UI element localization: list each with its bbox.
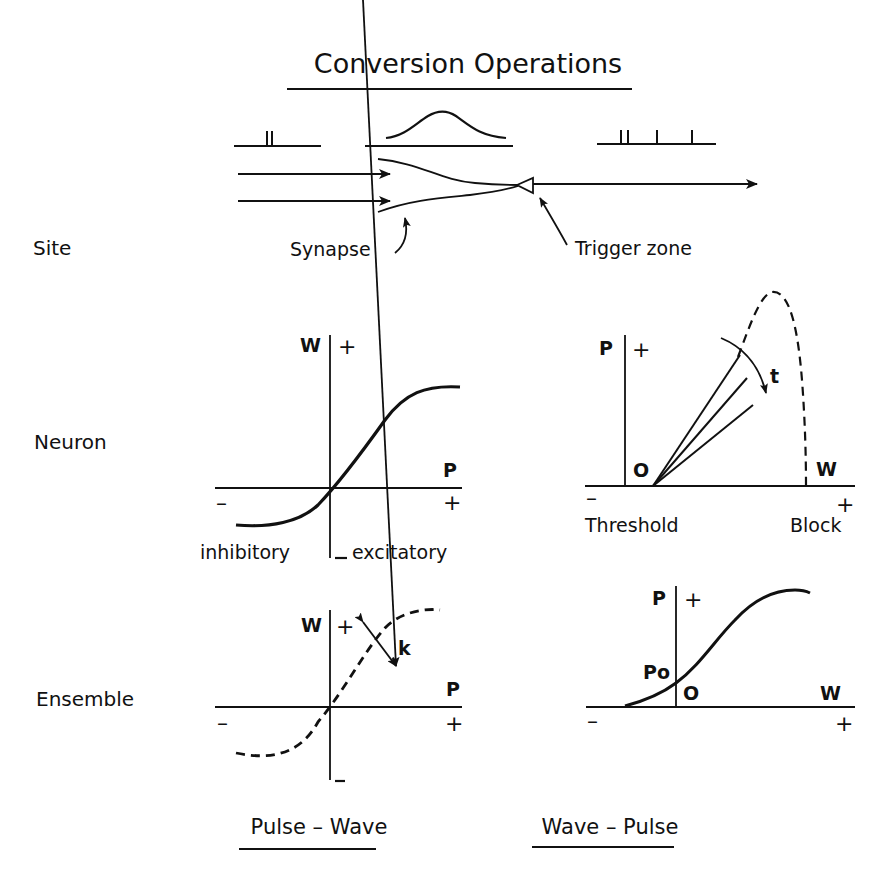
x-minus-sign: – bbox=[586, 485, 597, 510]
column-label-wave-pulse: Wave – Pulse bbox=[542, 815, 679, 839]
panel-ensemble-wave-pulse: P + Po O W – + bbox=[586, 586, 855, 736]
x-plus-sign: + bbox=[443, 490, 461, 515]
x-axis-label: W bbox=[820, 682, 841, 704]
k-parameter-arrow bbox=[363, 0, 396, 666]
y-plus-sign: + bbox=[684, 587, 702, 612]
fan-line-2 bbox=[653, 378, 747, 486]
inhibitory-label: inhibitory bbox=[200, 541, 290, 563]
fan-line-3 bbox=[653, 405, 753, 486]
x-minus-sign: – bbox=[216, 490, 227, 515]
x-plus-sign: + bbox=[445, 711, 463, 736]
x-minus-sign: – bbox=[587, 708, 598, 733]
intercept-label: Po bbox=[643, 661, 670, 683]
x-axis-label: W bbox=[816, 458, 837, 480]
fan-line-1 bbox=[653, 355, 740, 486]
site-schematic: Synapse Trigger zone bbox=[234, 112, 757, 261]
dendrite-upper bbox=[378, 159, 518, 185]
k-parameter-double-arrow bbox=[363, 622, 396, 666]
diagram-title: Conversion Operations bbox=[314, 48, 622, 79]
synapse-label: Synapse bbox=[290, 238, 371, 260]
x-minus-sign: – bbox=[217, 710, 228, 735]
origin-label: O bbox=[683, 682, 699, 704]
trigger-zone-triangle bbox=[517, 178, 533, 193]
block-label: Block bbox=[790, 514, 841, 536]
sigmoid-curve bbox=[236, 387, 460, 526]
trigger-zone-pointer-arrow bbox=[540, 198, 567, 245]
trigger-zone-label: Trigger zone bbox=[574, 237, 692, 259]
y-plus-sign: + bbox=[338, 334, 356, 359]
panel-neuron-wave-pulse: P + O W – + t Threshold Block bbox=[584, 292, 855, 536]
t-parameter-arrow bbox=[721, 338, 766, 393]
row-label-neuron: Neuron bbox=[34, 430, 107, 454]
x-plus-sign: + bbox=[835, 711, 853, 736]
panel-neuron-pulse-wave: W + P + – inhibitory excitatory bbox=[200, 334, 462, 563]
conversion-operations-diagram: Conversion Operations Site Neuron Ensemb… bbox=[0, 0, 886, 877]
y-plus-sign: + bbox=[336, 614, 354, 639]
row-label-site: Site bbox=[33, 236, 71, 260]
synapse-pointer-arrow bbox=[395, 218, 406, 253]
k-parameter-label: k bbox=[398, 637, 411, 659]
excitatory-label: excitatory bbox=[352, 541, 447, 563]
y-axis-label: P bbox=[652, 587, 666, 609]
y-axis-label: W bbox=[300, 334, 321, 356]
input-pulse-trace bbox=[234, 131, 321, 146]
output-pulse-trace bbox=[597, 130, 716, 144]
y-axis-label: W bbox=[301, 614, 322, 636]
origin-label: O bbox=[633, 459, 649, 481]
t-parameter-label: t bbox=[770, 365, 779, 387]
y-axis-label: P bbox=[599, 337, 613, 359]
x-axis-label: P bbox=[446, 678, 460, 700]
dendrite-lower bbox=[378, 186, 518, 212]
row-label-ensemble: Ensemble bbox=[36, 687, 134, 711]
block-envelope-dashed bbox=[738, 292, 806, 486]
column-label-pulse-wave: Pulse – Wave bbox=[251, 815, 388, 839]
threshold-label: Threshold bbox=[584, 514, 679, 536]
y-plus-sign: + bbox=[632, 337, 650, 362]
x-axis-label: P bbox=[443, 459, 457, 481]
wave-trace bbox=[365, 112, 513, 147]
